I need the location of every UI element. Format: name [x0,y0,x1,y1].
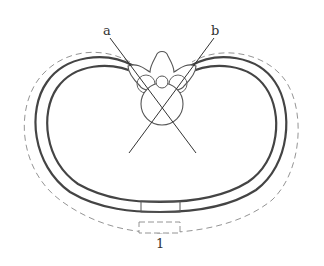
label-1: 1 [156,236,164,251]
thorax-cross-section-diagram: a b 1 [0,0,324,266]
vertebra [128,52,196,126]
dashed-sternum-segment [139,222,180,233]
spinal-canal [156,76,168,88]
line-a [110,38,196,153]
label-b: b [211,23,219,38]
label-a: a [103,23,111,38]
line-b [129,38,214,153]
